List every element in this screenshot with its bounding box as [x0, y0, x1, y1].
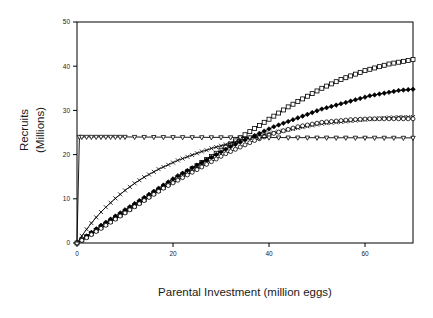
data-point-marker	[248, 130, 252, 134]
data-point-marker	[363, 117, 367, 121]
data-point-marker	[382, 63, 386, 67]
data-point-marker	[325, 120, 329, 124]
y-tick-label: 40	[63, 63, 71, 70]
data-point-marker	[80, 238, 84, 242]
data-point-marker	[296, 100, 300, 104]
data-point-marker	[94, 230, 98, 234]
y-tick-label: 10	[63, 195, 71, 202]
y-tick-label: 20	[63, 151, 71, 158]
data-point-marker	[272, 131, 276, 135]
data-point-marker	[305, 94, 309, 98]
data-point-marker	[128, 208, 132, 212]
x-axis-title: Parental Investment (million eggs)	[158, 286, 332, 298]
data-point-marker	[243, 133, 247, 137]
y-tick-label: 0	[66, 239, 70, 246]
data-point-marker	[301, 97, 305, 101]
data-point-marker	[200, 165, 204, 169]
data-point-marker	[272, 114, 276, 118]
y-tick-label: 50	[63, 18, 71, 25]
data-point-marker	[349, 118, 353, 122]
data-point-marker	[123, 211, 127, 215]
data-point-marker	[344, 76, 348, 80]
data-point-marker	[166, 184, 170, 188]
data-point-marker	[392, 117, 396, 121]
data-point-marker	[397, 117, 401, 121]
data-point-marker	[406, 58, 410, 62]
data-point-marker	[181, 176, 185, 180]
data-point-marker	[85, 236, 89, 240]
data-point-marker	[368, 117, 372, 121]
data-point-marker	[257, 123, 261, 127]
data-point-marker	[253, 127, 257, 131]
data-point-marker	[277, 130, 281, 134]
data-point-marker	[262, 135, 266, 139]
data-point-marker	[373, 117, 377, 121]
data-point-marker	[406, 117, 410, 121]
data-point-marker	[281, 108, 285, 112]
x-tick-label: 60	[361, 250, 369, 257]
data-point-marker	[315, 89, 319, 93]
data-point-marker	[161, 186, 165, 190]
data-point-marker	[176, 178, 180, 182]
data-point-marker	[99, 226, 103, 230]
data-point-marker	[113, 217, 117, 221]
data-point-marker	[349, 74, 353, 78]
data-point-marker	[104, 223, 108, 227]
data-point-marker	[286, 127, 290, 131]
data-point-marker	[209, 160, 213, 164]
data-point-marker	[157, 189, 161, 193]
data-point-marker	[320, 86, 324, 90]
data-point-marker	[190, 170, 194, 174]
data-point-marker	[214, 157, 218, 161]
y-axis-title-line2: (Millions)	[34, 107, 46, 153]
data-point-marker	[397, 60, 401, 64]
data-point-marker	[320, 120, 324, 124]
data-point-marker	[325, 84, 329, 88]
data-point-marker	[411, 58, 415, 62]
data-point-marker	[382, 117, 386, 121]
data-point-marker	[353, 72, 357, 76]
data-point-marker	[195, 168, 199, 172]
data-point-marker	[377, 117, 381, 121]
y-axis-title-line1: Recruits	[18, 109, 30, 151]
data-point-marker	[301, 124, 305, 128]
data-point-marker	[229, 150, 233, 154]
data-point-marker	[277, 111, 281, 115]
data-point-marker	[291, 102, 295, 106]
data-point-marker	[334, 119, 338, 123]
data-point-marker	[401, 117, 405, 121]
data-point-marker	[147, 195, 151, 199]
data-point-marker	[358, 70, 362, 74]
data-point-marker	[310, 92, 314, 96]
data-point-marker	[411, 117, 415, 121]
recruits-vs-parental-investment-chart: 01020304050 0204060 Parental Investment …	[0, 0, 433, 318]
data-point-marker	[344, 118, 348, 122]
data-point-marker	[310, 122, 314, 126]
data-point-marker	[305, 123, 309, 127]
data-point-marker	[267, 117, 271, 121]
data-point-marker	[142, 199, 146, 203]
data-point-marker	[339, 77, 343, 81]
data-point-marker	[329, 119, 333, 123]
data-point-marker	[339, 119, 343, 123]
data-point-marker	[248, 141, 252, 145]
data-point-marker	[286, 105, 290, 109]
data-point-marker	[89, 233, 93, 237]
data-point-marker	[253, 138, 257, 142]
data-point-marker	[185, 173, 189, 177]
x-tick-label: 0	[75, 250, 79, 257]
data-point-marker	[238, 145, 242, 149]
data-point-marker	[133, 205, 137, 209]
data-point-marker	[262, 120, 266, 124]
data-point-marker	[353, 117, 357, 121]
data-point-marker	[109, 220, 113, 224]
data-point-marker	[387, 117, 391, 121]
data-point-marker	[171, 181, 175, 185]
data-point-marker	[205, 162, 209, 166]
data-point-marker	[373, 66, 377, 70]
data-point-marker	[137, 202, 141, 206]
data-point-marker	[224, 152, 228, 156]
data-point-marker	[363, 69, 367, 73]
data-point-marker	[368, 67, 372, 71]
x-tick-label: 20	[169, 250, 177, 257]
